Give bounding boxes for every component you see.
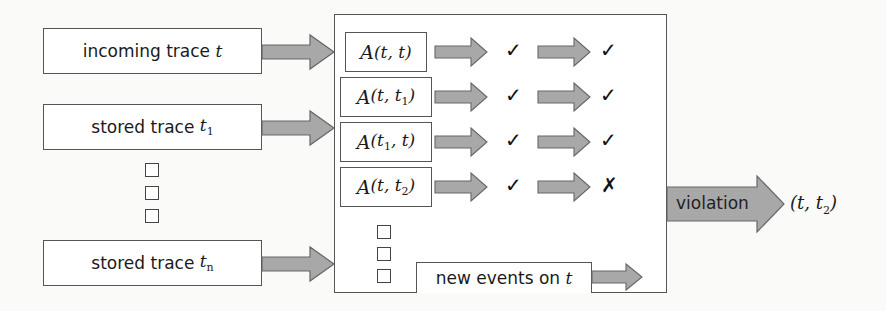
- arrow-right-icon: [262, 244, 336, 284]
- automaton-box: A(t, t): [345, 32, 427, 72]
- check-icon: ✓: [600, 38, 617, 62]
- automaton-box: A(t, t1): [340, 77, 432, 117]
- arrow-right-icon: [538, 126, 592, 158]
- violation-label: violation: [676, 193, 749, 213]
- check-icon: ✓: [505, 173, 522, 197]
- new-events-box: new events on t: [416, 262, 592, 293]
- input-label: incoming trace: [83, 41, 210, 61]
- new-events-label: new events on: [436, 268, 560, 288]
- ellipsis-square-icon: [145, 209, 159, 223]
- input-label: stored trace: [91, 117, 194, 137]
- ellipsis-square-icon: [377, 269, 391, 283]
- cross-icon: ✗: [601, 173, 618, 197]
- automaton-box: A(t1, t): [340, 122, 432, 162]
- trace-var: t1: [200, 115, 214, 138]
- trace-var: t: [215, 41, 222, 61]
- check-icon: ✓: [505, 38, 522, 62]
- arrow-right-icon: [592, 262, 644, 292]
- input-stored-trace-1: stored trace t1: [43, 104, 262, 150]
- input-stored-trace-n: stored trace tn: [43, 240, 262, 286]
- trace-var: tn: [200, 251, 214, 274]
- ellipsis-square-icon: [377, 225, 391, 239]
- ellipsis-square-icon: [377, 247, 391, 261]
- arrow-right-icon: [262, 32, 336, 72]
- check-icon: ✓: [505, 128, 522, 152]
- arrow-right-icon: [538, 171, 592, 203]
- arrow-right-icon: [435, 126, 489, 158]
- check-icon: ✓: [600, 83, 617, 107]
- arrow-right-icon: [262, 108, 336, 148]
- check-icon: ✓: [505, 83, 522, 107]
- arrow-right-icon: [435, 81, 489, 113]
- automaton-box: A(t, t2): [340, 167, 432, 207]
- arrow-right-icon: [538, 36, 592, 68]
- input-incoming-trace: incoming trace t: [43, 28, 262, 74]
- ellipsis-square-icon: [145, 163, 159, 177]
- ellipsis-square-icon: [145, 186, 159, 200]
- violation-result: (t, t2): [790, 192, 837, 217]
- check-icon: ✓: [600, 128, 617, 152]
- arrow-right-icon: [435, 171, 489, 203]
- arrow-right-icon: [435, 36, 489, 68]
- trace-var: t: [565, 268, 572, 288]
- arrow-right-icon: [538, 81, 592, 113]
- input-label: stored trace: [91, 253, 194, 273]
